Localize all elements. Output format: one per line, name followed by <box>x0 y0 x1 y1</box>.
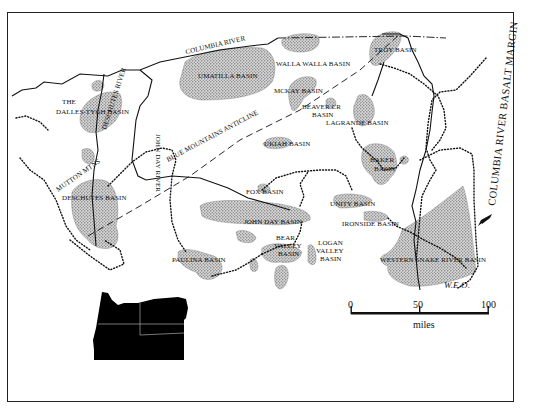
label-logan-valley-3: BASIN <box>320 255 342 263</box>
walla-walla-basin-shape <box>282 34 320 52</box>
scale-tick-100: 100 <box>481 299 496 310</box>
scale-bar: 0 50 100 miles <box>348 299 496 330</box>
label-john-day-basin: JOHN DAY BASIN <box>244 218 302 226</box>
label-the-dalles-1: THE <box>62 98 76 106</box>
label-logan-valley-2: VALLEY <box>316 247 344 255</box>
scale-tick-50: 50 <box>413 299 423 310</box>
label-walla-walla-basin: WALLA WALLA BASIN <box>276 60 350 68</box>
label-unity-basin: UNITY BASIN <box>330 200 375 208</box>
label-initials: W.E.O. <box>444 280 470 290</box>
label-the-dalles-2: DALLES-TYGH BASIN <box>56 108 129 116</box>
scale-tick-0: 0 <box>348 299 353 310</box>
label-umatilla-basin: UMATILLA BASIN <box>198 72 258 80</box>
geologic-basin-map: COLUMBIA RIVER WALLA WALLA BASIN TROY BA… <box>0 0 547 412</box>
label-beaver-cr-1: BEAVER CR <box>302 103 341 111</box>
label-bear-valley-3: BASIN <box>278 250 300 258</box>
label-deschutes-basin: DESCHUTES BASIN <box>62 194 127 202</box>
label-fox-basin: FOX BASIN <box>246 188 284 196</box>
label-lagrande-basin: LAGRANDE BASIN <box>326 119 389 127</box>
label-paulina-basin: PAULINA BASIN <box>172 256 226 264</box>
label-baker-2: BASIN <box>374 165 396 173</box>
label-john-day-river: JOHN DAY RIVER <box>154 134 162 192</box>
label-mckay-basin: MCKAY BASIN <box>274 87 323 95</box>
oregon-inset-map <box>93 292 188 360</box>
label-western-snake-river-basin: WESTERN SNAKE RIVER BASIN <box>380 256 486 264</box>
western-snake-river-basin-shape <box>381 186 476 286</box>
deschutes-basin-shape <box>72 180 118 249</box>
label-ukiah-basin: UKIAH BASIN <box>264 140 310 148</box>
label-bear-valley-1: BEAR <box>276 234 295 242</box>
logan-valley-basin-shape <box>308 245 316 265</box>
scale-unit: miles <box>413 319 435 330</box>
east-small-shape <box>400 156 408 164</box>
label-bear-valley-2: VALLEY <box>274 242 302 250</box>
label-troy-basin: TROY BASIN <box>374 46 417 54</box>
john-day-south-shape <box>236 230 256 242</box>
oregon-silhouette <box>93 292 188 360</box>
bear-valley-south-shape <box>275 265 289 289</box>
grande-ronde-line <box>372 62 384 96</box>
label-logan-valley-1: LOGAN <box>318 239 343 247</box>
basalt-margin-arrow-icon <box>478 214 492 226</box>
label-columbia-river-basalt-margin: COLUMBIA RIVER BASALT MARGIN <box>486 21 520 207</box>
label-baker-1: BAKER <box>370 156 394 164</box>
label-beaver-cr-2: BASIN <box>312 111 334 119</box>
label-blue-mountains-anticline: BLUE MOUNTAINS ANTICLINE <box>165 109 259 164</box>
label-ironside-basin: IRONSIDE BASIN <box>342 220 399 228</box>
